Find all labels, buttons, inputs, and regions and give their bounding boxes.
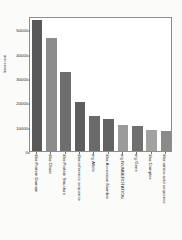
x-axis-tick-label: dbo:Protein Domain (33, 154, 37, 193)
bar (32, 20, 43, 151)
bar (118, 125, 129, 151)
x-axis-tick-label: mg:NUMBEROTATION (119, 154, 123, 199)
bar (161, 131, 172, 151)
x-axis-tick-label: dbo:reference sequence (76, 154, 80, 201)
x-axis-tick-label: mg:Allele (91, 154, 95, 172)
bar (146, 130, 157, 151)
x-axis-tick-label: dbo:Complex (148, 154, 152, 180)
plot-area: 01000020000300004000050000 (29, 17, 172, 152)
bar (89, 116, 100, 151)
bar (132, 126, 143, 151)
x-axis-tick-label: mg:Gene (134, 154, 138, 172)
y-axis-tick-mark (28, 153, 30, 154)
bar (60, 72, 71, 151)
x-axis-tick-label: dbo:amino acid sequence (162, 154, 166, 204)
bar (75, 102, 86, 151)
bar-chart-figure: Instance count 0100002000030000400005000… (0, 0, 182, 240)
bar-series (30, 18, 171, 151)
bar (46, 38, 57, 151)
x-axis-tick-label: dbo:Accession Number (105, 154, 109, 199)
x-axis-tick-label: dbo:Protein Structure (62, 154, 66, 195)
x-axis-tick-label: dbo:Chain (48, 154, 52, 174)
bar (103, 119, 114, 151)
y-axis-title: Instance count (0, 44, 12, 84)
